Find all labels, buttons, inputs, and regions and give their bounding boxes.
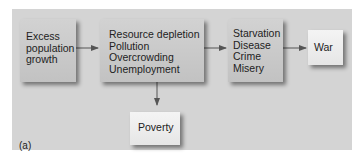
node-text: Poverty bbox=[138, 122, 180, 134]
node-text: Crime bbox=[233, 51, 283, 63]
panel-label: (a) bbox=[19, 140, 31, 151]
node-text: Excess bbox=[26, 31, 76, 43]
node-war: War bbox=[308, 30, 343, 65]
node-text: Resource depletion bbox=[109, 29, 204, 41]
node-text: Misery bbox=[233, 63, 283, 75]
node-text: Starvation bbox=[233, 28, 283, 40]
node-text: growth bbox=[26, 54, 76, 66]
node-text: Overcrowding bbox=[109, 52, 204, 64]
node-text: Unemployment bbox=[109, 64, 204, 76]
node-starvation: Starvation Disease Crime Misery bbox=[228, 19, 283, 82]
node-text: War bbox=[314, 42, 343, 54]
node-poverty: Poverty bbox=[130, 112, 180, 145]
node-resource-depletion: Resource depletion Pollution Overcrowdin… bbox=[100, 19, 204, 82]
node-excess-population-growth: Excess population growth bbox=[20, 19, 76, 82]
